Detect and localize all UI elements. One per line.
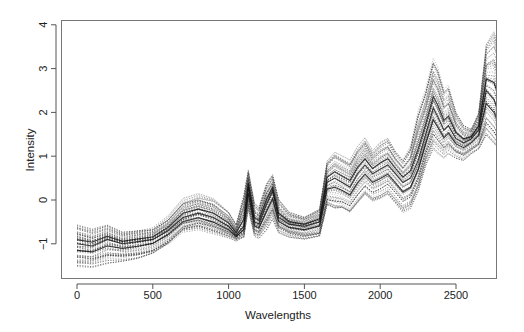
- y-axis-title: Intensity: [24, 128, 36, 171]
- x-tick-label: 2000: [368, 289, 392, 301]
- x-tick-label: 500: [144, 289, 162, 301]
- spectra-chart: 05001000150020002500 −101234 Wavelengths…: [0, 0, 524, 332]
- y-tick-label: −1: [37, 238, 49, 251]
- x-tick-label: 0: [74, 289, 80, 301]
- x-tick-label: 2500: [444, 289, 468, 301]
- y-tick-label: 3: [37, 66, 49, 72]
- chart-background: [0, 0, 524, 332]
- x-axis-title: Wavelengths: [245, 309, 311, 321]
- x-tick-label: 1000: [216, 289, 240, 301]
- y-tick-label: 4: [37, 22, 49, 28]
- y-tick-label: 1: [37, 153, 49, 159]
- x-tick-label: 1500: [292, 289, 316, 301]
- y-tick-label: 2: [37, 109, 49, 115]
- y-tick-label: 0: [37, 197, 49, 203]
